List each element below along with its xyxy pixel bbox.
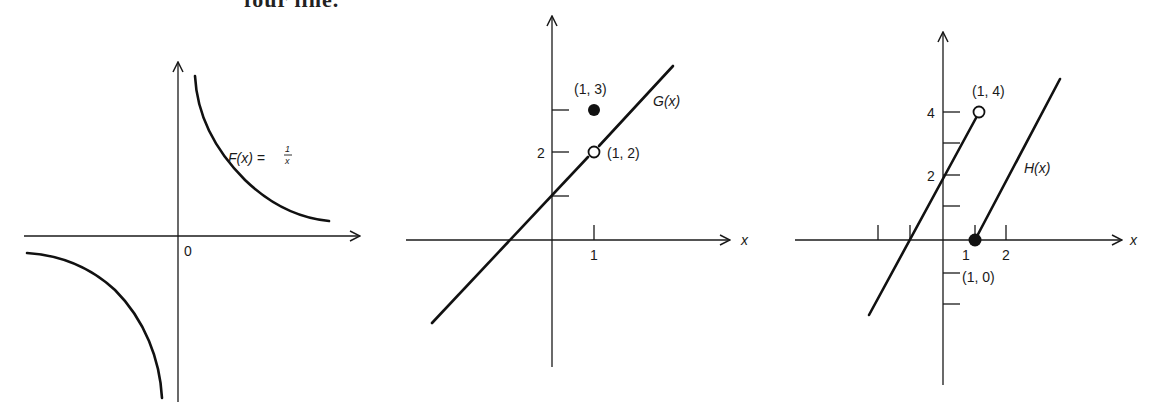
graph-f: 0 F(x) = 1 x [24,62,360,402]
x-axis-label: x [1129,232,1138,248]
open-point-1-4 [974,107,985,118]
graph-g: 2 1 x (1, 3) (1, 2) G(x) [406,16,749,367]
h-line-left-piece [869,118,976,315]
y-tick-label-4: 4 [927,105,935,121]
figure-canvas: 0 F(x) = 1 x 2 1 x (1, 3) (1, 2) G(x) [0,0,1151,402]
graph-h: 4 2 1 2 x (1, 4) (1, 0) H(x) [795,32,1138,385]
x-tick-label-1: 1 [590,247,598,263]
point-label-1-0: (1, 0) [962,269,995,285]
hyperbola-negative-branch [27,253,162,398]
function-label-f: F(x) = [228,150,265,166]
y-tick-label-2: 2 [537,145,545,161]
point-label-1-3: (1, 3) [574,81,607,97]
function-label-g: G(x) [653,93,680,109]
x-tick-label-2: 2 [1002,247,1010,263]
hyperbola-positive-branch [195,76,329,221]
point-label-1-2: (1, 2) [607,145,640,161]
filled-point-1-0 [969,234,982,247]
y-tick-label-2: 2 [927,168,935,184]
point-label-1-4: (1, 4) [972,83,1005,99]
origin-label: 0 [184,243,192,259]
x-tick-label-1: 1 [962,247,970,263]
open-point-1-2 [589,147,600,158]
fraction-denominator: x [284,156,290,166]
x-axis-label: x [740,232,749,248]
fraction-numerator: 1 [285,144,290,154]
filled-point-1-3 [588,104,600,116]
function-label-h: H(x) [1024,160,1050,176]
